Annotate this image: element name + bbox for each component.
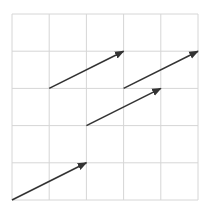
vector-grid-diagram xyxy=(0,0,207,210)
grid-lines xyxy=(12,14,198,200)
